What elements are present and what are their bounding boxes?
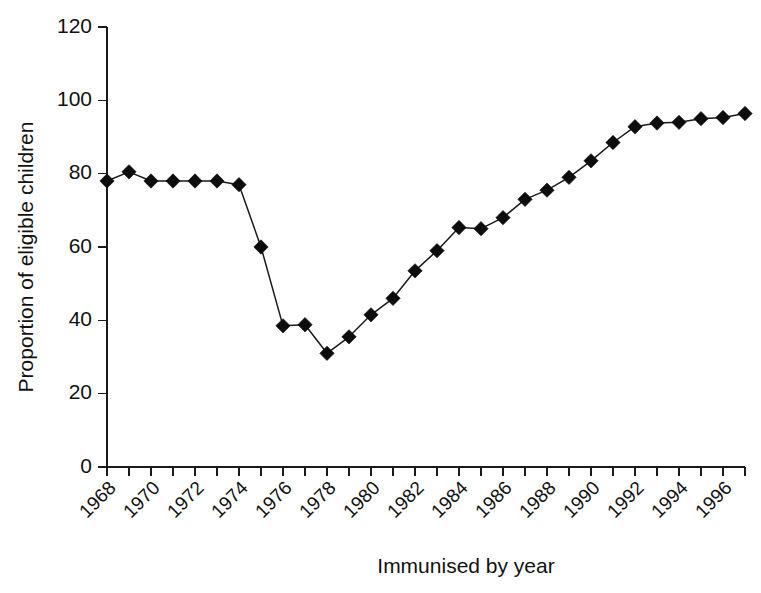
x-axis-title: Immunised by year	[377, 554, 554, 577]
y-tick-label: 120	[57, 14, 92, 37]
y-tick-label: 0	[80, 454, 92, 477]
line-chart: 020406080100120 196819701972197419761978…	[0, 0, 761, 593]
plot-background	[0, 0, 761, 593]
y-tick-label: 100	[57, 87, 92, 110]
y-tick-label: 40	[69, 307, 92, 330]
y-axis-title: Proportion of eligible children	[14, 122, 37, 393]
chart-container: 020406080100120 196819701972197419761978…	[0, 0, 761, 593]
y-tick-label: 60	[69, 234, 92, 257]
y-tick-label: 20	[69, 380, 92, 403]
y-tick-label: 80	[69, 160, 92, 183]
